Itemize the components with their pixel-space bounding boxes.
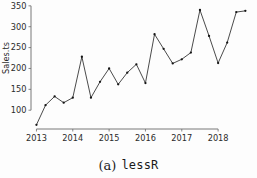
caption-index-label: (a) [98,158,116,173]
y-tick-label: 250 [11,42,27,52]
x-tick-label: 2018 [208,133,229,143]
data-point-marker [226,41,228,43]
y-tick-label: 300 [11,22,27,32]
data-point-marker [172,62,174,64]
data-point-marker [208,35,210,37]
y-axis-title: Sales.ts [1,42,11,74]
x-tick-label: 2016 [135,133,156,143]
figure-caption: (a) lessR [0,152,257,178]
data-point-marker [53,95,55,97]
data-point-marker [90,97,92,99]
data-point-marker [72,97,74,99]
y-axis: 100150200250300350 [11,1,31,115]
data-point-marker [244,10,246,12]
x-tick-label: 2015 [99,133,120,143]
y-tick-label: 350 [11,1,27,11]
data-point-marker [126,71,128,73]
data-point-marker [162,48,164,50]
sales-line-chart: 100150200250300350 201320142015201620172… [0,0,257,152]
data-point-marker [63,102,65,104]
data-point-marker [199,9,201,11]
data-point-marker [44,104,46,106]
data-point-marker [144,82,146,84]
data-point-marker [153,33,155,35]
figure-panel: 100150200250300350 201320142015201620172… [0,0,257,178]
y-tick-label: 100 [11,105,27,115]
data-point-marker [108,67,110,69]
data-point-marker [81,56,83,58]
caption-name-label: lessR [121,158,158,172]
data-point-marker [99,81,101,83]
data-point-marker [135,63,137,65]
data-point-marker [190,51,192,53]
data-point-marker [35,124,37,126]
chart-plot-area: 100150200250300350 201320142015201620172… [0,0,257,152]
x-tick-label: 2014 [62,133,83,143]
data-point-marker [181,58,183,60]
x-tick-label: 2013 [26,133,47,143]
series-markers [35,9,246,126]
x-axis: 201320142015201620172018 [26,129,229,143]
series-line-sales [36,10,245,125]
data-point-marker [217,62,219,64]
y-tick-label: 150 [11,84,27,94]
x-tick-label: 2017 [171,133,192,143]
data-point-marker [117,83,119,85]
y-tick-label: 200 [11,63,27,73]
data-point-marker [235,11,237,13]
